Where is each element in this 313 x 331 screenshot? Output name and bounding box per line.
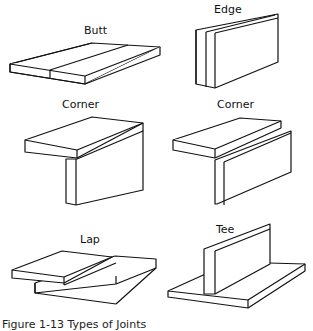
tee-label: Tee bbox=[216, 223, 234, 236]
corner-label-1: Corner bbox=[62, 98, 99, 111]
corner-joint-2-drawing bbox=[173, 118, 291, 205]
corner-joint-1-drawing bbox=[25, 117, 143, 205]
lap-joint-drawing bbox=[12, 251, 156, 304]
butt-label: Butt bbox=[84, 24, 107, 37]
edge-joint-drawing bbox=[196, 14, 278, 88]
tee-joint-drawing bbox=[168, 224, 305, 308]
butt-joint-drawing bbox=[10, 43, 160, 84]
lap-label: Lap bbox=[80, 233, 100, 246]
figure-caption: Figure 1-13 Types of Joints bbox=[2, 318, 146, 331]
edge-label: Edge bbox=[214, 3, 242, 16]
corner-label-2: Corner bbox=[217, 98, 254, 111]
